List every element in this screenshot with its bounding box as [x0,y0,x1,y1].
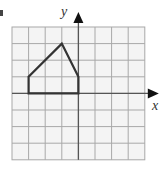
x-axis-label: x [152,98,158,114]
y-axis-arrow-icon [73,12,83,23]
coordinate-diagram: y x [0,0,163,173]
x-axis-arrow-icon [148,88,159,98]
coordinate-grid [0,0,163,173]
y-axis-label: y [61,4,67,20]
